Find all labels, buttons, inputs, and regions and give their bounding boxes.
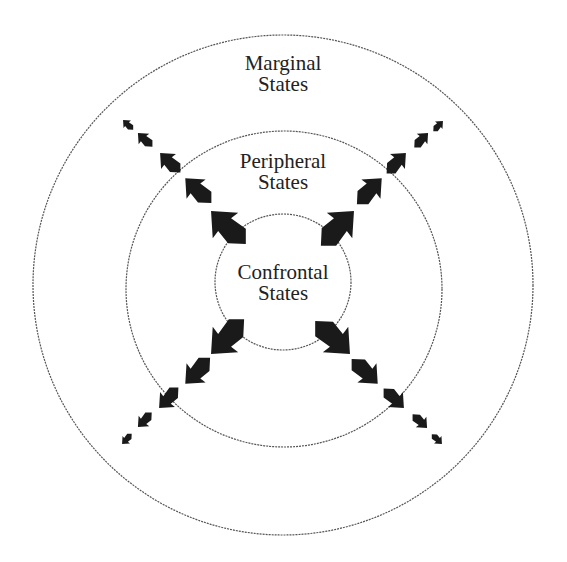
label-line: Confrontal bbox=[203, 262, 363, 283]
arrow-icon bbox=[133, 128, 158, 153]
label-line: States bbox=[203, 283, 363, 304]
arrow-icon bbox=[118, 430, 135, 447]
arrow-icon bbox=[428, 430, 445, 447]
arrow-icon bbox=[409, 128, 434, 153]
arrows-south-west bbox=[118, 307, 257, 447]
label-line: States bbox=[203, 172, 363, 193]
arrow-icon bbox=[153, 146, 188, 181]
arrow-icon bbox=[408, 409, 433, 434]
label-line: States bbox=[203, 74, 363, 95]
arrow-icon bbox=[377, 381, 412, 416]
arrow-icon bbox=[307, 198, 366, 257]
arrow-icon bbox=[343, 349, 388, 394]
arrow-icon bbox=[429, 117, 446, 134]
label-confrontal-states: Confrontal States bbox=[203, 262, 363, 304]
label-line: Peripheral bbox=[203, 151, 363, 172]
arrows-south-east bbox=[303, 307, 445, 447]
arrow-icon bbox=[176, 349, 221, 394]
arrow-icon bbox=[133, 408, 158, 433]
arrow-icon bbox=[379, 146, 414, 181]
label-line: Marginal bbox=[203, 53, 363, 74]
label-marginal-states: Marginal States bbox=[203, 53, 363, 95]
arrow-icon bbox=[152, 381, 187, 416]
arrow-icon bbox=[198, 198, 257, 257]
label-peripheral-states: Peripheral States bbox=[203, 151, 363, 193]
arrow-icon bbox=[119, 116, 136, 133]
arrow-icon bbox=[303, 307, 362, 366]
